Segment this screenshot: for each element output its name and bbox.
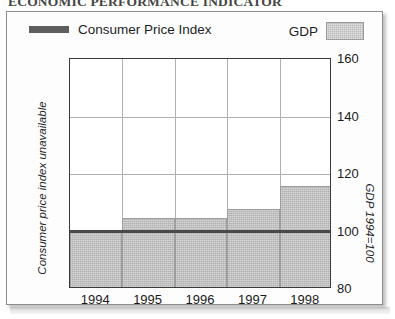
x-tick-1998: 1998 <box>279 292 331 312</box>
y-tick-160: 160 <box>337 51 359 66</box>
legend-swatch-box-icon <box>326 22 364 40</box>
x-axis-ticks: 19941995199619971998 <box>69 292 331 312</box>
x-tick-1994: 1994 <box>69 292 121 312</box>
cpi-line <box>70 230 330 233</box>
plot-area <box>69 58 331 288</box>
y-tick-100: 100 <box>337 223 359 238</box>
chart-legend: Consumer Price Index GDP <box>7 22 382 44</box>
page-title: ECONOMIC PERFORMANCE INDICATOR <box>8 0 388 8</box>
gridline-horizontal <box>70 174 330 175</box>
bar-1998 <box>280 186 331 287</box>
y-axis-ticks: 16014012010080 <box>337 58 395 288</box>
legend-item-gdp: GDP <box>289 22 364 40</box>
x-tick-1997: 1997 <box>226 292 278 312</box>
chart-figure: Consumer Price Index GDP Consumer price … <box>6 11 383 305</box>
y-tick-140: 140 <box>337 108 359 123</box>
bar-1994 <box>70 230 122 288</box>
y-tick-80: 80 <box>337 281 351 296</box>
legend-label-consumer-price-index: Consumer Price Index <box>78 22 212 37</box>
axis-title-left: Consumer price index unavailable <box>36 93 48 283</box>
plot-wrapper <box>69 58 331 288</box>
legend-label-gdp: GDP <box>289 24 318 39</box>
x-tick-1996: 1996 <box>174 292 226 312</box>
legend-swatch-line-icon <box>29 26 69 33</box>
bar-1997 <box>227 209 279 287</box>
y-tick-120: 120 <box>337 166 359 181</box>
gridline-horizontal <box>70 117 330 118</box>
bar-1996 <box>175 218 227 287</box>
legend-item-consumer-price-index: Consumer Price Index <box>29 22 212 37</box>
bar-1995 <box>122 218 174 287</box>
x-tick-1995: 1995 <box>121 292 173 312</box>
